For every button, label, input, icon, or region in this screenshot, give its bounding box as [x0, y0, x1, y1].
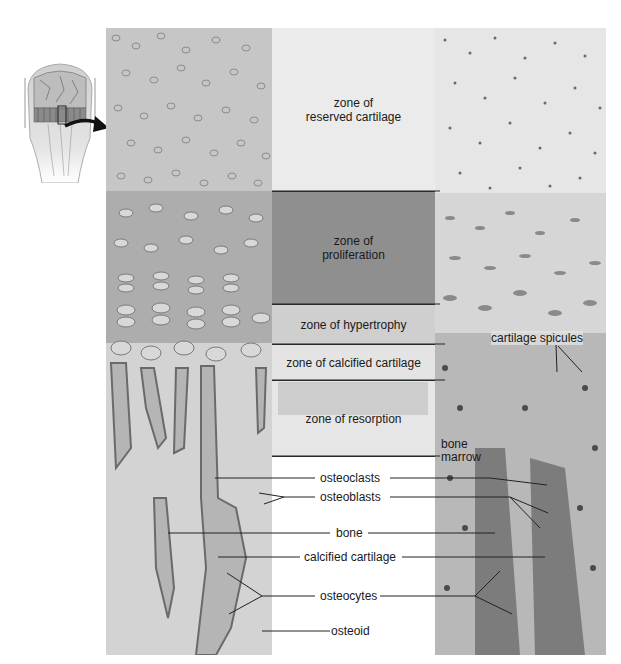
zone-proliferation: zone ofproliferation	[272, 191, 435, 304]
resorption-shade	[278, 382, 428, 415]
zone-calcified-label: zone of calcified cartilage	[286, 356, 421, 370]
zone-proliferation-label-line1: zone of	[322, 234, 385, 248]
illustrated-growth-plate	[106, 28, 272, 655]
pointer-arrow-icon	[55, 108, 110, 143]
zone-hypertrophy-label: zone of hypertrophy	[300, 318, 406, 332]
label-cartilage-spicules: cartilage spicules	[491, 331, 583, 345]
zone-resorption-label: zone of resorption	[305, 412, 401, 426]
label-osteocytes: osteocytes	[320, 589, 377, 603]
zone-reserved-label-line2: reserved cartilage	[306, 110, 401, 124]
label-bone-marrow-line1: bone	[441, 437, 468, 451]
zone-reserved-label-line1: zone of	[306, 96, 401, 110]
label-osteoid: osteoid	[331, 624, 370, 638]
zone-calcified-cartilage: zone of calcified cartilage	[272, 344, 435, 380]
cell-pattern-illustration	[106, 28, 272, 655]
label-calcified-cartilage: calcified cartilage	[304, 550, 396, 564]
zone-proliferation-label-line2: proliferation	[322, 248, 385, 262]
zone-reserved-cartilage: zone ofreserved cartilage	[272, 28, 435, 191]
label-osteoclasts: osteoclasts	[320, 471, 380, 485]
label-bone: bone	[336, 526, 363, 540]
label-osteoblasts: osteoblasts	[320, 490, 381, 504]
zone-hypertrophy: zone of hypertrophy	[272, 304, 435, 344]
label-bone-marrow-line2: marrow	[441, 450, 481, 464]
zone-resorption: zone of resorption	[272, 380, 435, 456]
